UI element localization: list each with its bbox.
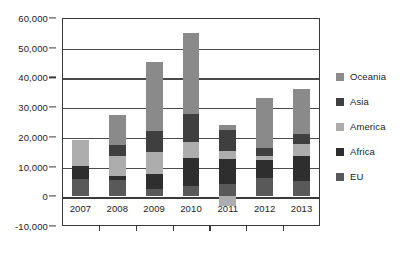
y-tick-label: 50,000 [18,42,48,53]
bar-segment-america-2013[interactable] [293,144,310,157]
legend-label: Africa [350,146,375,157]
legend-label: Asia [350,96,369,107]
bar-segment-oceania-2011[interactable] [219,125,236,130]
y-tick-mark [49,196,56,197]
y-tick-label: 10,000 [18,161,48,172]
y-tick-label: 30,000 [18,102,48,113]
bar-segment-asia-2009[interactable] [146,131,163,152]
bar-group-2008[interactable] [109,18,126,226]
bar-segment-eu-2008[interactable] [109,180,126,196]
bar-segment-asia-2013[interactable] [293,134,310,144]
bar-segment-africa-2011[interactable] [219,159,236,184]
x-axis: 2007200820092010201120122013 [62,203,320,225]
bar-segment-oceania-2012[interactable] [256,98,273,148]
legend-item-eu[interactable]: EU [336,164,416,189]
y-tick-mark [49,166,56,167]
bar-segment-asia-2008[interactable] [109,145,126,156]
y-tick-mark [49,17,56,18]
bar-segment-asia-2012[interactable] [256,148,273,156]
x-tick-label-2012: 2012 [254,203,276,214]
bar-segment-africa-2008[interactable] [109,176,126,180]
bar-segment-asia-2010[interactable] [183,114,200,142]
bar-segment-eu-2007[interactable] [72,179,89,197]
legend-item-america[interactable]: America [336,114,416,139]
x-tick-label-2008: 2008 [107,203,129,214]
bar-group-2010[interactable] [183,18,200,226]
x-tick-mark [246,226,247,231]
bar-segment-america-2007[interactable] [72,140,89,166]
bar-segment-oceania-2008[interactable] [109,115,126,146]
bar-segment-africa-2009[interactable] [146,174,163,189]
y-tick-mark [49,47,56,48]
bar-segment-eu-2011[interactable] [219,184,236,196]
chart-legend: OceaniaAsiaAmericaAfricaEU [336,64,416,189]
y-tick-label: 40,000 [18,72,48,83]
y-tick-mark [49,225,56,226]
legend-label: America [350,121,386,132]
bar-segment-eu-2013[interactable] [293,181,310,196]
bar-segment-eu-2009[interactable] [146,189,163,196]
stacked-bar-chart: -10,000010,00020,00030,00040,00050,00060… [0,0,417,268]
legend-item-asia[interactable]: Asia [336,89,416,114]
x-tick-mark [209,226,210,231]
x-tick-label-2013: 2013 [291,203,313,214]
bar-segment-asia-2011[interactable] [219,130,236,151]
legend-swatch-oceania-icon [336,73,344,81]
y-tick-label: 20,000 [18,131,48,142]
bar-segment-eu-2010[interactable] [183,186,200,196]
y-tick-mark [49,136,56,137]
bar-segment-oceania-2010[interactable] [183,33,200,114]
bar-segment-america-2010[interactable] [183,142,200,157]
x-tick-label-2011: 2011 [217,203,238,214]
bar-segment-africa-2013[interactable] [293,156,310,181]
bar-segment-eu-2012[interactable] [256,178,273,196]
y-tick-label: -10,000 [15,221,48,232]
legend-label: Oceania [350,71,386,82]
bar-segment-america-2011[interactable] [219,151,236,160]
bar-group-2009[interactable] [146,18,163,226]
bar-group-2013[interactable] [293,18,310,226]
bar-group-2007[interactable] [72,18,89,226]
legend-swatch-asia-icon [336,98,344,106]
x-tick-mark [136,226,137,231]
legend-item-africa[interactable]: Africa [336,139,416,164]
bar-segment-america-2012[interactable] [256,156,273,160]
legend-swatch-africa-icon [336,148,344,156]
legend-item-oceania[interactable]: Oceania [336,64,416,89]
legend-swatch-america-icon [336,123,344,131]
y-tick-label: 0 [43,191,48,202]
y-tick-mark [49,107,56,108]
x-tick-label-2007: 2007 [70,203,92,214]
x-tick-mark [173,226,174,231]
x-tick-label-2009: 2009 [143,203,165,214]
x-tick-mark [283,226,284,231]
bar-segment-africa-2010[interactable] [183,158,200,187]
y-tick-label: 60,000 [18,13,48,24]
x-tick-label-2010: 2010 [180,203,202,214]
bar-segment-america-2008[interactable] [109,156,126,177]
x-tick-mark [99,226,100,231]
bar-segment-oceania-2013[interactable] [293,89,310,134]
bar-segment-oceania-2009[interactable] [146,62,163,131]
legend-swatch-eu-icon [336,173,344,181]
y-axis: -10,000010,00020,00030,00040,00050,00060… [0,0,58,268]
bar-segment-africa-2012[interactable] [256,160,273,178]
bars-layer [62,18,320,226]
legend-label: EU [350,171,363,182]
bar-group-2011[interactable] [219,18,236,226]
bar-group-2012[interactable] [256,18,273,226]
bar-segment-america-2009[interactable] [146,152,163,175]
y-tick-mark [49,77,56,78]
bar-segment-africa-2007[interactable] [72,166,89,179]
